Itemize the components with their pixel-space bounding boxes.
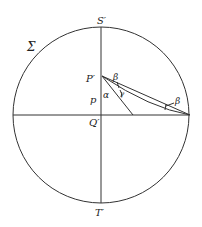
p-length-label: p — [90, 94, 97, 105]
circle-diagram: Σ S′ T′ P′ Q′ p α β γ β — [0, 0, 202, 227]
alpha-label: α — [103, 90, 109, 100]
q-prime-label: Q′ — [89, 117, 100, 128]
sigma-label: Σ — [26, 40, 36, 54]
t-prime-label: T′ — [95, 207, 105, 218]
gamma-label: γ — [120, 90, 125, 98]
s-prime-label: S′ — [97, 15, 107, 26]
p-prime-label: P′ — [85, 73, 96, 84]
beta-right-label: β — [174, 96, 180, 106]
beta-top-label: β — [112, 72, 118, 82]
